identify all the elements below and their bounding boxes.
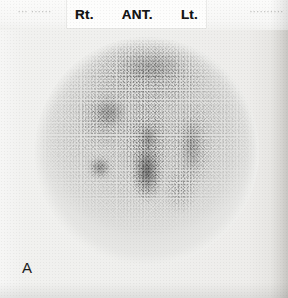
header-faded-left-text: ··· ······ [18,7,52,17]
label-right-marker: Rt. [75,7,94,22]
orientation-labels: Rt. ANT. Lt. [67,2,206,26]
panel-letter: A [22,259,32,276]
label-left-marker: Lt. [181,7,198,22]
film-bottom-edge-shade [0,282,288,298]
film-right-edge-shade [270,0,288,298]
field-of-view-edge-falloff [35,37,259,266]
scintigraphy-figure: ··· ······ ·········· Rt. ANT. Lt. A [0,0,288,298]
gamma-camera-field-of-view [35,37,259,266]
label-anterior-view: ANT. [122,7,153,22]
header-annotation-band: ··· ······ ·········· Rt. ANT. Lt. [0,0,288,29]
